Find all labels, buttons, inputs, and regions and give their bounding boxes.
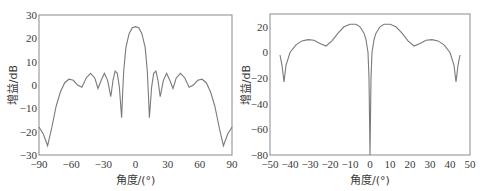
x-tick-label: 50 xyxy=(465,158,477,170)
x-tick-label: −90 xyxy=(30,158,48,170)
figure: 3020100−10−20−30 −90−60−300306090 角度/(°)… xyxy=(0,0,481,191)
y-tick-label: 20 xyxy=(26,32,38,44)
x-tick-label: −10 xyxy=(341,158,359,170)
y-tick-label: −10 xyxy=(20,102,38,114)
right-gain-curve xyxy=(280,24,460,155)
left-x-axis-label: 角度/(°) xyxy=(116,173,156,187)
left-y-axis-label: 增益/dB xyxy=(6,65,20,105)
x-tick-label: −30 xyxy=(95,158,113,170)
x-tick-label: −40 xyxy=(281,158,299,170)
y-tick-label: 20 xyxy=(257,21,269,33)
x-tick-label: 30 xyxy=(162,158,174,170)
right-y-ticks: 200−20−40−60−80 xyxy=(251,21,269,161)
y-tick-label: 0 xyxy=(32,79,38,91)
right-x-ticks: −50−40−30−20−1001020304050 xyxy=(261,158,476,170)
x-tick-label: 20 xyxy=(405,158,417,170)
y-tick-label: 30 xyxy=(26,9,38,21)
y-tick-label: 0 xyxy=(263,46,269,58)
left-x-ticks: −90−60−300306090 xyxy=(30,158,238,170)
right-x-axis-label: 角度/(°) xyxy=(350,173,390,187)
y-tick-label: −60 xyxy=(251,123,269,135)
left-chart: 3020100−10−20−30 −90−60−300306090 角度/(°)… xyxy=(6,9,238,187)
x-tick-label: 40 xyxy=(445,158,457,170)
right-y-axis-label: 增益/dB xyxy=(239,65,253,105)
y-tick-label: 10 xyxy=(26,56,38,68)
x-tick-label: 60 xyxy=(194,158,206,170)
x-tick-label: 30 xyxy=(425,158,437,170)
y-tick-label: −20 xyxy=(20,126,38,138)
y-tick-label: −40 xyxy=(251,98,269,110)
x-tick-label: 0 xyxy=(133,158,139,170)
x-tick-label: 10 xyxy=(385,158,397,170)
left-y-ticks: 3020100−10−20−30 xyxy=(20,9,38,161)
x-tick-label: −30 xyxy=(301,158,319,170)
y-tick-label: −20 xyxy=(251,72,269,84)
x-tick-label: −60 xyxy=(63,158,81,170)
x-tick-label: −50 xyxy=(261,158,279,170)
x-tick-label: 0 xyxy=(367,158,373,170)
right-chart: 200−20−40−60−80 −50−40−30−20−10010203040… xyxy=(239,14,476,187)
left-gain-curve xyxy=(39,27,232,146)
x-tick-label: −20 xyxy=(321,158,339,170)
x-tick-label: 90 xyxy=(227,158,239,170)
left-plot-frame xyxy=(39,15,232,155)
